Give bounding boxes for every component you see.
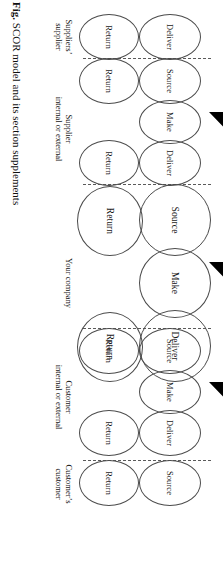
section-label-line1: Supplier <box>63 84 73 174</box>
node-supplier-make[interactable]: Make <box>139 100 201 144</box>
node-your-company-return-source[interactable]: Return <box>77 186 143 256</box>
node-your-company-make[interactable]: Make <box>139 248 211 318</box>
node-label: Source <box>165 69 175 93</box>
plan-arrow-your-company <box>205 224 223 294</box>
node-suppliers-supplier-deliver[interactable]: Deliver <box>139 14 201 60</box>
node-label: Make <box>170 272 180 294</box>
node-label: Return <box>104 69 114 93</box>
section-label-suppliers-supplier: Suppliers’ supplier <box>53 5 73 69</box>
node-customer-return-source[interactable]: Return <box>79 328 139 374</box>
node-label: Return <box>104 421 114 445</box>
section-label-line2: internal or external <box>53 352 63 442</box>
scor-diagram: Deliver Return Suppliers’ supplier Sourc… <box>0 0 223 574</box>
section-label-customers-customer: Customer’s customer <box>53 452 73 516</box>
node-label: Source <box>165 339 175 363</box>
figure-caption: Fig. SCOR model and its section suppleme… <box>11 2 23 205</box>
rotated-figure-canvas: Deliver Return Suppliers’ supplier Sourc… <box>0 0 223 574</box>
node-label: Deliver <box>165 420 175 446</box>
node-customer-source[interactable]: Source <box>139 328 201 374</box>
section-label-line1: Customer’s <box>63 452 73 516</box>
node-supplier-return-source[interactable]: Return <box>79 58 139 104</box>
section-label-customer: Customer internal or external <box>53 352 73 442</box>
figure-caption-prefix: Fig. <box>11 2 23 20</box>
node-label: Source <box>165 471 175 495</box>
section-label-line2: customer <box>53 452 63 516</box>
section-label-line2: internal or external <box>53 84 63 174</box>
section-label-line1: Customer <box>63 352 73 442</box>
node-customer-return-deliver[interactable]: Return <box>79 410 139 456</box>
section-label-supplier: Supplier internal or external <box>53 84 73 174</box>
node-label: Return <box>104 339 114 363</box>
section-label-line1: Suppliers’ <box>63 5 73 69</box>
node-customer-make[interactable]: Make <box>139 370 201 414</box>
plan-arrow-customer <box>205 352 223 410</box>
node-label: Return <box>104 151 114 175</box>
node-label: Source <box>170 207 180 234</box>
node-customers-customer-return[interactable]: Return <box>79 460 139 506</box>
section-label-line2: supplier <box>53 5 63 69</box>
node-supplier-return-deliver[interactable]: Return <box>79 140 139 186</box>
node-label: Return <box>104 471 114 495</box>
section-label-your-company: Your company <box>63 238 73 328</box>
node-supplier-source[interactable]: Source <box>139 58 201 104</box>
node-label: Return <box>105 208 115 234</box>
node-customers-customer-source[interactable]: Source <box>139 460 201 506</box>
node-customer-deliver[interactable]: Deliver <box>139 410 201 456</box>
node-suppliers-supplier-return[interactable]: Return <box>79 14 139 60</box>
node-label: Deliver <box>165 150 175 176</box>
plan-arrow-supplier <box>205 82 223 140</box>
node-label: Deliver <box>165 24 175 50</box>
node-label: Make <box>165 382 175 402</box>
figure-caption-text: SCOR model and its section supplements <box>11 23 23 205</box>
node-your-company-source[interactable]: Source <box>139 184 211 256</box>
node-label: Make <box>165 112 175 132</box>
node-label: Return <box>104 25 114 49</box>
node-supplier-deliver[interactable]: Deliver <box>139 140 201 186</box>
section-label-line1: Your company <box>63 238 73 328</box>
